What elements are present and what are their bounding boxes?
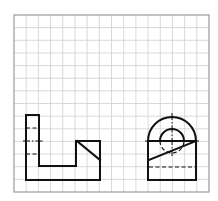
technical-drawing <box>0 0 218 201</box>
drawing-canvas <box>0 0 218 201</box>
side-view-base-rect <box>148 141 196 180</box>
side-view <box>145 113 199 180</box>
front-view-chamfer-line <box>77 141 100 160</box>
front-view <box>23 115 100 180</box>
